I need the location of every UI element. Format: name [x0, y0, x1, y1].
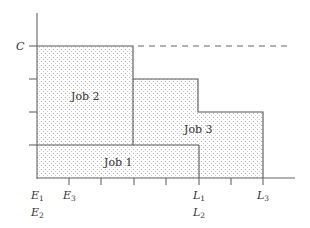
- capacity-label: C: [16, 40, 25, 53]
- label-e3: E3: [62, 189, 76, 203]
- job2-label: Job 2: [70, 90, 100, 103]
- label-l3: L3: [256, 189, 269, 203]
- label-l1: L1: [192, 189, 205, 203]
- label-l2: L2: [192, 206, 205, 220]
- job1-label: Job 1: [103, 156, 133, 169]
- label-e1: E1: [30, 189, 44, 203]
- job-schedule-diagram: C Job 2 Job 3 Job 1 E1 E2 E3 L1 L2 L3: [0, 0, 310, 228]
- job3-label: Job 3: [183, 123, 213, 136]
- label-e2: E2: [30, 206, 44, 220]
- diagram-svg: C Job 2 Job 3 Job 1 E1 E2 E3 L1 L2 L3: [0, 0, 310, 228]
